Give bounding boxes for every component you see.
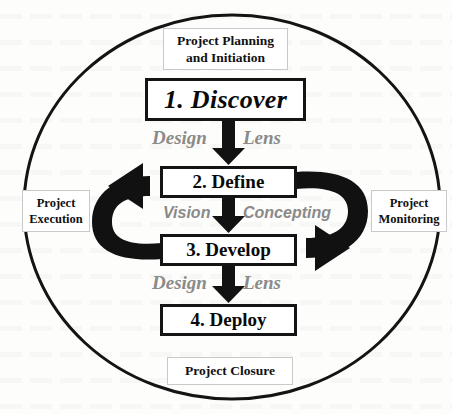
stage-label-closure: Project Closure bbox=[167, 357, 293, 385]
arrow-develop-deploy-icon bbox=[212, 266, 245, 303]
transition-label-concepting: Concepting bbox=[243, 204, 331, 222]
stage-label-planning-line1: Project Planning bbox=[177, 32, 274, 49]
phase-box-discover[interactable]: 1. Discover bbox=[145, 78, 306, 121]
arrow-define-develop-icon bbox=[212, 198, 245, 233]
stage-label-monitoring: Project Monitoring bbox=[371, 190, 447, 232]
arrow-develop-to-define-loop-icon bbox=[92, 163, 162, 260]
transition-label-design-2: Design bbox=[152, 272, 207, 294]
phase-box-develop[interactable]: 3. Develop bbox=[160, 234, 297, 266]
stage-label-execution: Project Execution bbox=[22, 190, 90, 232]
phase-box-deploy[interactable]: 4. Deploy bbox=[160, 304, 297, 336]
stage-label-execution-line2: Execution bbox=[29, 211, 82, 227]
transition-label-vision: Vision bbox=[163, 204, 210, 222]
stage-label-monitoring-line1: Project bbox=[390, 195, 429, 211]
diagram-canvas: Project Planning and Initiation 1. Disco… bbox=[0, 0, 452, 414]
transition-label-design-1: Design bbox=[152, 127, 207, 149]
stage-label-monitoring-line2: Monitoring bbox=[378, 211, 439, 227]
phase-box-define[interactable]: 2. Define bbox=[160, 166, 297, 198]
transition-label-lens-2: Lens bbox=[243, 272, 281, 294]
transition-label-lens-1: Lens bbox=[243, 127, 281, 149]
stage-label-closure-text: Project Closure bbox=[185, 362, 275, 379]
phase-label-discover: 1. Discover bbox=[164, 85, 287, 115]
stage-label-planning: Project Planning and Initiation bbox=[163, 28, 288, 70]
phase-label-develop: 3. Develop bbox=[186, 239, 270, 261]
stage-label-execution-line1: Project bbox=[37, 195, 76, 211]
phase-label-define: 2. Define bbox=[193, 171, 265, 193]
stage-label-planning-line2: and Initiation bbox=[186, 49, 265, 66]
phase-label-deploy: 4. Deploy bbox=[191, 309, 267, 331]
arrow-discover-define-icon bbox=[212, 121, 245, 165]
